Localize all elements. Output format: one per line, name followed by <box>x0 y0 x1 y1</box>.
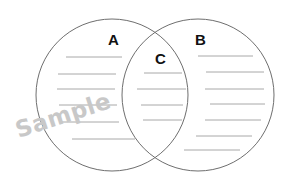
region-a-lines <box>57 57 135 139</box>
region-b-lines <box>184 56 265 150</box>
venn-diagram: A B C <box>0 0 287 184</box>
label-a: A <box>108 31 119 48</box>
region-c-lines <box>137 73 186 120</box>
label-b: B <box>195 31 206 48</box>
label-c: C <box>155 50 166 67</box>
